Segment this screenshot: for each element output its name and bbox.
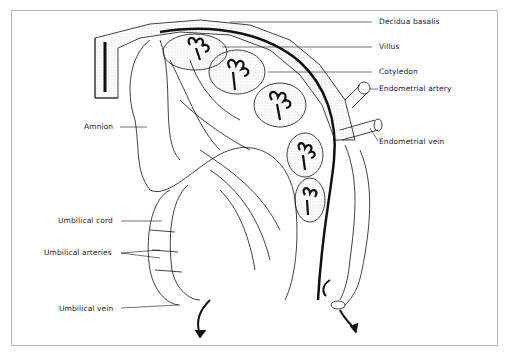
label-umbilical-arteries: Umbilical arteries: [44, 248, 112, 257]
label-umbilical-vein: Umbilical vein: [59, 304, 113, 313]
label-decidua-basalis: Decidua basalis: [379, 17, 440, 26]
label-umbilical-cord: Umbilical cord: [58, 216, 113, 225]
label-villus: Villus: [379, 42, 399, 51]
label-endometrial-vein: Endometrial vein: [379, 137, 444, 146]
label-cotyledon: Cotyledon: [379, 67, 418, 76]
placenta-illustration: [0, 0, 506, 355]
label-endometrial-artery: Endometrial artery: [379, 84, 452, 93]
label-amnion: Amnion: [84, 122, 113, 131]
